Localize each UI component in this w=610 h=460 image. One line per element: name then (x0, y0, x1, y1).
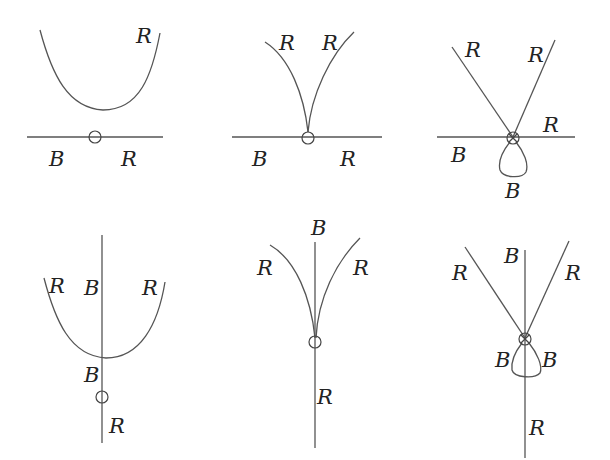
label: B (503, 244, 519, 268)
label: R (120, 147, 137, 171)
cusp-left-branch (270, 245, 315, 338)
diagram-canvas: R B R R R B R R R R B B R B R B R (0, 0, 610, 460)
label: B (504, 179, 520, 203)
label: B (494, 348, 510, 372)
label: R (339, 147, 356, 171)
label: R (564, 261, 581, 285)
label: R (48, 274, 65, 298)
label: R (464, 38, 481, 62)
label: R (527, 43, 544, 67)
cusp-left-branch (265, 42, 308, 132)
loop-curve (499, 142, 526, 177)
label: R (321, 31, 338, 55)
label: B (48, 147, 64, 171)
label: B (83, 363, 99, 387)
label: B (310, 216, 326, 240)
label: R (278, 31, 295, 55)
label: R (352, 256, 369, 280)
label: R (451, 261, 468, 285)
panel-5: B R R R (256, 216, 369, 448)
label: R (256, 256, 273, 280)
label: R (135, 24, 152, 48)
cusp-right-branch (316, 238, 360, 338)
label: R (108, 414, 125, 438)
point-marker (302, 132, 314, 144)
label: R (542, 113, 559, 137)
label: R (141, 276, 158, 300)
panel-2: R R B R (232, 31, 382, 171)
label: B (83, 276, 99, 300)
line-left (452, 47, 513, 137)
label: B (251, 147, 267, 171)
panel-4: R B R B R (44, 235, 165, 443)
loop-curve (512, 343, 541, 377)
line-right (525, 241, 569, 338)
panel-6: B R R B B R (451, 241, 581, 458)
label: R (316, 385, 333, 409)
panel-3: R R R B B (437, 38, 575, 203)
panel-1: R B R (27, 24, 163, 171)
label: B (450, 143, 466, 167)
label: R (528, 416, 545, 440)
label: B (541, 348, 557, 372)
